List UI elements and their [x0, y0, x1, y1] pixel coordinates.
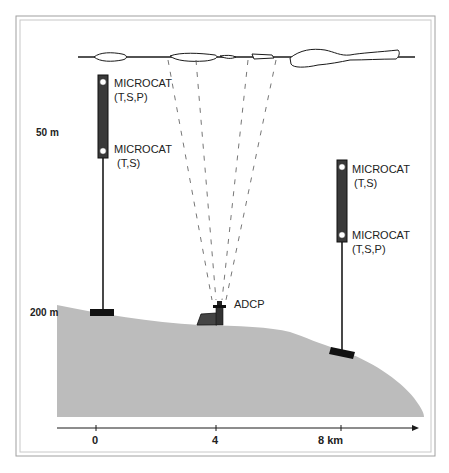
axis-tick-label-8km: 8 km — [318, 434, 343, 446]
right-mooring-float-bar — [337, 160, 347, 242]
right-lower-microcat-label: MICROCAT — [352, 229, 410, 241]
depth-label-200m: 200 m — [30, 307, 58, 318]
left-upper-microcat-params: (T,S,P) — [114, 91, 148, 103]
microcat-sensor-icon — [100, 79, 107, 86]
right-upper-microcat-label: MICROCAT — [352, 163, 410, 175]
left-mooring — [90, 75, 114, 316]
mooring-diagram: MICROCAT (T,S,P) MICROCAT (T,S) 50 m 200… — [0, 0, 449, 473]
sea-ice — [78, 49, 415, 67]
left-upper-microcat-label: MICROCAT — [114, 77, 172, 89]
adcp-instrument — [197, 301, 226, 325]
left-mooring-float-bar — [98, 75, 108, 158]
distance-axis — [57, 425, 419, 431]
microcat-sensor-icon — [100, 148, 107, 155]
left-lower-microcat-params: (T,S) — [117, 157, 140, 169]
adcp-label: ADCP — [234, 298, 265, 310]
left-anchor — [90, 309, 114, 316]
microcat-sensor-icon — [339, 164, 346, 171]
microcat-sensor-icon — [339, 232, 346, 239]
right-mooring — [329, 160, 355, 359]
depth-label-50m: 50 m — [36, 127, 59, 138]
axis-tick-label-4: 4 — [212, 434, 219, 446]
axis-tick-label-0: 0 — [92, 434, 98, 446]
adcp-beams — [168, 60, 276, 300]
right-lower-microcat-params: (T,S,P) — [352, 243, 386, 255]
axis-arrow-icon — [412, 425, 419, 431]
left-lower-microcat-label: MICROCAT — [114, 143, 172, 155]
seafloor — [57, 305, 424, 417]
right-upper-microcat-params: (T,S) — [354, 177, 377, 189]
